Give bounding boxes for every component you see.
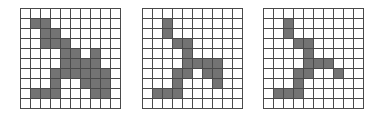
empty-cell bbox=[183, 29, 193, 39]
filled-cell bbox=[173, 39, 183, 49]
empty-cell bbox=[143, 39, 153, 49]
empty-cell bbox=[143, 19, 153, 29]
empty-cell bbox=[71, 89, 81, 99]
empty-cell bbox=[344, 69, 354, 79]
filled-cell bbox=[294, 79, 304, 89]
empty-cell bbox=[153, 59, 163, 69]
empty-cell bbox=[213, 9, 223, 19]
empty-cell bbox=[21, 69, 31, 79]
empty-cell bbox=[314, 79, 324, 89]
filled-cell bbox=[41, 29, 51, 39]
empty-cell bbox=[111, 89, 121, 99]
empty-cell bbox=[173, 9, 183, 19]
empty-cell bbox=[284, 9, 294, 19]
empty-cell bbox=[213, 89, 223, 99]
empty-cell bbox=[344, 89, 354, 99]
empty-cell bbox=[173, 29, 183, 39]
empty-cell bbox=[274, 69, 284, 79]
filled-cell bbox=[51, 29, 61, 39]
empty-cell bbox=[213, 49, 223, 59]
filled-cell bbox=[183, 69, 193, 79]
empty-cell bbox=[61, 19, 71, 29]
empty-cell bbox=[264, 89, 274, 99]
empty-cell bbox=[101, 39, 111, 49]
filled-cell bbox=[304, 69, 314, 79]
filled-cell bbox=[51, 69, 61, 79]
empty-cell bbox=[294, 29, 304, 39]
empty-cell bbox=[31, 49, 41, 59]
empty-cell bbox=[111, 19, 121, 29]
filled-cell bbox=[304, 59, 314, 69]
empty-cell bbox=[274, 59, 284, 69]
empty-cell bbox=[71, 99, 81, 109]
filled-cell bbox=[203, 59, 213, 69]
empty-cell bbox=[294, 9, 304, 19]
empty-cell bbox=[274, 99, 284, 109]
empty-cell bbox=[304, 9, 314, 19]
empty-cell bbox=[163, 59, 173, 69]
empty-cell bbox=[21, 29, 31, 39]
empty-cell bbox=[51, 59, 61, 69]
empty-cell bbox=[324, 99, 334, 109]
empty-cell bbox=[71, 29, 81, 39]
empty-cell bbox=[344, 79, 354, 89]
filled-cell bbox=[213, 59, 223, 69]
filled-cell bbox=[203, 69, 213, 79]
empty-cell bbox=[284, 49, 294, 59]
empty-cell bbox=[324, 89, 334, 99]
filled-cell bbox=[183, 39, 193, 49]
empty-cell bbox=[354, 89, 364, 99]
filled-cell bbox=[163, 29, 173, 39]
empty-cell bbox=[264, 69, 274, 79]
empty-cell bbox=[111, 9, 121, 19]
empty-cell bbox=[233, 19, 243, 29]
empty-cell bbox=[193, 9, 203, 19]
filled-cell bbox=[71, 49, 81, 59]
empty-cell bbox=[274, 49, 284, 59]
empty-cell bbox=[173, 49, 183, 59]
grid-1 bbox=[20, 8, 121, 109]
empty-cell bbox=[91, 39, 101, 49]
empty-cell bbox=[274, 9, 284, 19]
empty-cell bbox=[61, 79, 71, 89]
empty-cell bbox=[31, 69, 41, 79]
empty-cell bbox=[314, 39, 324, 49]
empty-cell bbox=[314, 69, 324, 79]
empty-cell bbox=[183, 79, 193, 89]
empty-cell bbox=[153, 99, 163, 109]
empty-cell bbox=[101, 9, 111, 19]
filled-cell bbox=[284, 89, 294, 99]
empty-cell bbox=[81, 89, 91, 99]
empty-cell bbox=[183, 19, 193, 29]
empty-cell bbox=[111, 49, 121, 59]
empty-cell bbox=[264, 39, 274, 49]
filled-cell bbox=[71, 69, 81, 79]
empty-cell bbox=[324, 39, 334, 49]
filled-cell bbox=[91, 79, 101, 89]
empty-cell bbox=[344, 59, 354, 69]
empty-cell bbox=[304, 29, 314, 39]
empty-cell bbox=[163, 79, 173, 89]
empty-cell bbox=[31, 29, 41, 39]
empty-cell bbox=[101, 19, 111, 29]
empty-cell bbox=[153, 49, 163, 59]
empty-cell bbox=[354, 29, 364, 39]
empty-cell bbox=[31, 99, 41, 109]
empty-cell bbox=[71, 9, 81, 19]
empty-cell bbox=[324, 29, 334, 39]
empty-cell bbox=[304, 19, 314, 29]
empty-cell bbox=[173, 99, 183, 109]
filled-cell bbox=[213, 69, 223, 79]
empty-cell bbox=[143, 29, 153, 39]
empty-cell bbox=[223, 19, 233, 29]
empty-cell bbox=[294, 99, 304, 109]
empty-cell bbox=[143, 49, 153, 59]
empty-cell bbox=[233, 99, 243, 109]
empty-cell bbox=[193, 79, 203, 89]
empty-cell bbox=[233, 89, 243, 99]
empty-cell bbox=[101, 59, 111, 69]
empty-cell bbox=[153, 79, 163, 89]
empty-cell bbox=[223, 79, 233, 89]
empty-cell bbox=[334, 99, 344, 109]
empty-cell bbox=[81, 9, 91, 19]
